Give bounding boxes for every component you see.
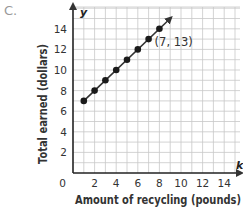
x-tick-label: 14 xyxy=(218,177,232,189)
x-tick-label: 8 xyxy=(156,177,163,189)
x-axis-variable: k xyxy=(236,159,243,172)
y-tick-label: 10 xyxy=(54,64,67,76)
data-point xyxy=(124,56,131,63)
x-tick-label: 4 xyxy=(113,177,120,189)
point-annotation: (7, 13) xyxy=(155,35,193,49)
y-tick-label: 8 xyxy=(60,85,67,97)
data-point xyxy=(113,67,120,74)
data-point xyxy=(156,26,163,33)
x-tick-label: 2 xyxy=(91,177,98,189)
x-tick-label: 10 xyxy=(174,177,187,189)
data-point xyxy=(102,77,109,84)
data-point xyxy=(145,36,152,43)
x-axis-title: Amount of recycling (pounds) xyxy=(75,192,241,207)
line-chart: yk246810121424681012140Amount of recycli… xyxy=(0,0,243,208)
y-tick-label: 12 xyxy=(54,43,67,55)
y-axis-title: Total earned (dollars) xyxy=(35,44,50,164)
y-axis-variable: y xyxy=(80,6,88,19)
data-point xyxy=(81,98,88,105)
x-tick-label: 12 xyxy=(196,177,209,189)
data-point xyxy=(91,87,98,94)
x-tick-label: 6 xyxy=(134,177,141,189)
data-point xyxy=(135,46,142,53)
y-tick-label: 2 xyxy=(60,146,67,158)
origin-label: 0 xyxy=(59,177,66,189)
y-tick-label: 6 xyxy=(60,105,67,117)
y-tick-label: 14 xyxy=(54,23,68,35)
y-tick-label: 4 xyxy=(60,126,67,138)
